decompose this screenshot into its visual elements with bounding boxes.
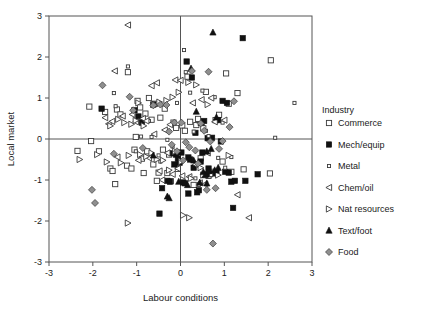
y-tick-label: -2 xyxy=(34,216,42,226)
data-point xyxy=(243,178,248,183)
legend-item-label: Nat resources xyxy=(338,204,395,214)
data-point xyxy=(151,162,156,167)
scatter-plot-figure: -3-2-10123 -3-2-10123 IndustryCommerceMe… xyxy=(0,0,427,311)
data-point xyxy=(154,178,159,183)
data-point xyxy=(267,171,272,176)
data-point xyxy=(160,147,165,152)
legend-item-label: Metal xyxy=(338,161,360,171)
data-point xyxy=(129,166,134,171)
data-point xyxy=(157,211,162,216)
small-open-square-icon xyxy=(327,164,330,167)
data-point xyxy=(189,75,194,80)
data-point xyxy=(175,101,178,104)
data-point xyxy=(274,136,277,139)
legend-title: Industry xyxy=(322,105,355,115)
data-point xyxy=(88,138,93,143)
legend-item-label: Food xyxy=(338,247,359,257)
data-point xyxy=(113,182,118,187)
data-point xyxy=(184,71,187,74)
data-point xyxy=(126,65,129,68)
data-point xyxy=(140,135,143,138)
x-tick-label: -1 xyxy=(133,268,141,278)
data-point xyxy=(186,191,191,196)
data-point xyxy=(196,188,201,193)
data-point xyxy=(141,170,146,175)
x-tick-label: 1 xyxy=(222,268,227,278)
legend-item-label: Text/foot xyxy=(338,226,373,236)
y-tick-label: 1 xyxy=(37,93,42,103)
y-tick-label: 3 xyxy=(37,11,42,21)
y-tick-label: -3 xyxy=(34,257,42,267)
y-tick-label: 2 xyxy=(37,52,42,62)
legend-item-label: Chem/oil xyxy=(338,183,374,193)
data-point xyxy=(255,172,260,177)
data-point xyxy=(75,148,80,153)
data-point xyxy=(207,135,210,138)
data-point xyxy=(192,130,195,133)
data-point xyxy=(114,105,117,108)
data-point xyxy=(167,179,172,184)
legend-item-label: Commerce xyxy=(338,118,382,128)
x-tick-label: 3 xyxy=(309,268,314,278)
data-point xyxy=(224,100,229,105)
data-point xyxy=(293,101,296,104)
y-tick-label: 0 xyxy=(37,134,42,144)
open-square-icon xyxy=(326,120,331,125)
data-point xyxy=(223,71,228,76)
data-point xyxy=(232,178,237,183)
y-axis-label: Local market xyxy=(5,111,16,166)
data-point xyxy=(224,166,227,169)
data-point xyxy=(138,105,143,110)
data-point xyxy=(189,91,192,94)
data-point xyxy=(146,95,151,100)
data-point xyxy=(188,119,193,124)
data-point xyxy=(172,162,177,167)
data-point xyxy=(235,90,240,95)
x-tick-label: -3 xyxy=(45,268,53,278)
data-point xyxy=(158,115,163,120)
legend-item-label: Mech/equip xyxy=(338,140,385,150)
x-tick-label: -2 xyxy=(89,268,97,278)
data-point xyxy=(182,128,187,133)
data-point xyxy=(133,134,138,139)
chart-background xyxy=(0,0,427,311)
filled-square-icon xyxy=(326,142,331,147)
data-point xyxy=(230,205,235,210)
data-point xyxy=(268,58,273,63)
data-point xyxy=(182,48,185,51)
data-point xyxy=(226,170,231,175)
x-tick-label: 2 xyxy=(266,268,271,278)
data-point xyxy=(87,104,92,109)
x-axis-label: Labour conditions xyxy=(143,292,218,303)
data-point xyxy=(240,35,245,40)
data-point xyxy=(125,70,130,75)
data-point xyxy=(157,154,160,157)
chart-canvas: -3-2-10123 -3-2-10123 IndustryCommerceMe… xyxy=(0,0,427,311)
data-point xyxy=(150,135,153,138)
data-point xyxy=(220,159,225,164)
x-tick-label: 0 xyxy=(178,268,183,278)
data-point xyxy=(201,89,204,92)
data-point xyxy=(241,167,246,172)
y-tick-label: -1 xyxy=(34,175,42,185)
data-point xyxy=(166,138,169,141)
data-point xyxy=(184,59,189,64)
data-point xyxy=(191,182,196,187)
data-point xyxy=(134,150,137,153)
data-point xyxy=(112,92,115,95)
data-point xyxy=(217,156,220,159)
data-point xyxy=(159,186,164,191)
data-point xyxy=(99,106,104,111)
data-point xyxy=(110,168,115,173)
